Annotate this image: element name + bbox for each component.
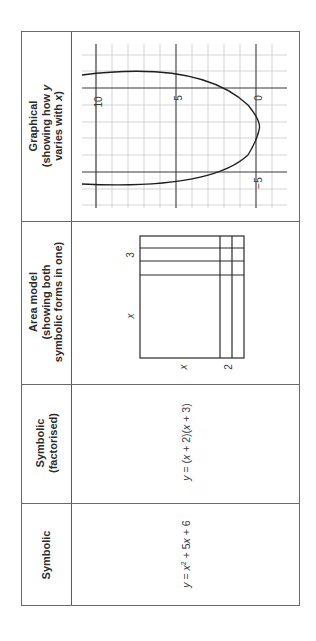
area-label-x-bottom: x bbox=[178, 364, 189, 371]
grid-lines-vertical bbox=[96, 44, 272, 208]
tick-label-5: 5 bbox=[173, 95, 184, 101]
area-outer-rect bbox=[140, 236, 244, 358]
tick-label-0: 0 bbox=[253, 95, 264, 101]
graph: 10 5 0 −5 bbox=[82, 44, 287, 208]
area-label-2: 2 bbox=[223, 364, 234, 370]
figure-layer: 10 5 0 −5 3 x x 2 bbox=[0, 0, 316, 641]
area-model bbox=[140, 236, 244, 358]
area-label-3: 3 bbox=[125, 252, 136, 258]
tick-label-minus-5: −5 bbox=[253, 177, 264, 189]
area-label-x-side: x bbox=[125, 313, 136, 320]
tick-label-10: 10 bbox=[93, 96, 104, 108]
